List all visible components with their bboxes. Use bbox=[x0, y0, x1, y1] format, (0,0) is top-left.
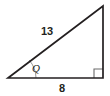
angle-label: Q bbox=[32, 62, 40, 74]
hypotenuse-label: 13 bbox=[41, 25, 53, 37]
base-label: 8 bbox=[59, 82, 65, 94]
triangle-figure: 13 8 Q bbox=[0, 0, 110, 96]
triangle-diagram: 13 8 Q bbox=[0, 0, 110, 96]
figure-background bbox=[0, 0, 110, 96]
